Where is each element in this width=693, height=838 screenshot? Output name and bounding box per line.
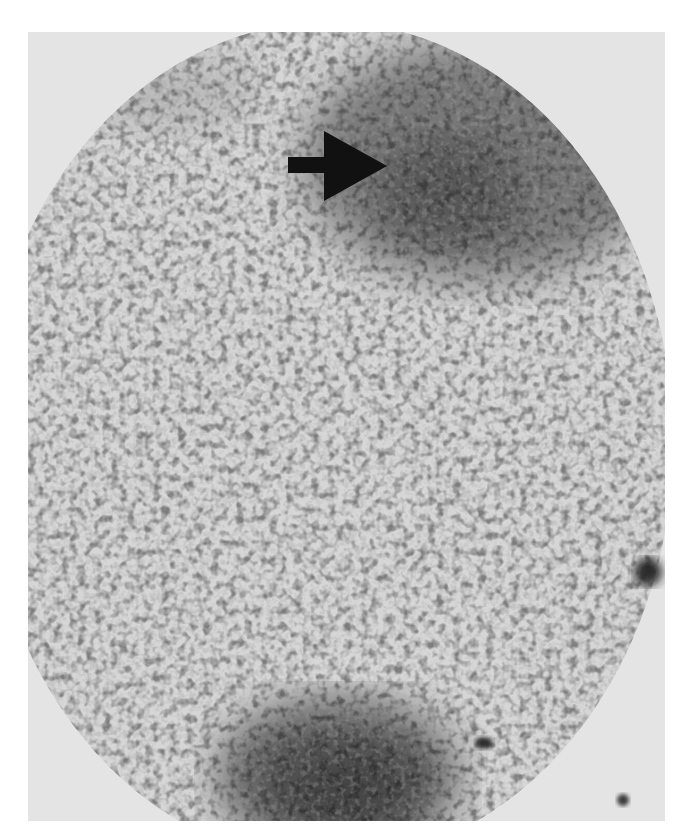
lower-right-small-spot [475,737,493,749]
scintigraphy-image [28,32,665,821]
marker-dot [617,794,629,806]
right-edge-hot-spot [634,558,662,586]
scan-canvas [28,32,665,821]
